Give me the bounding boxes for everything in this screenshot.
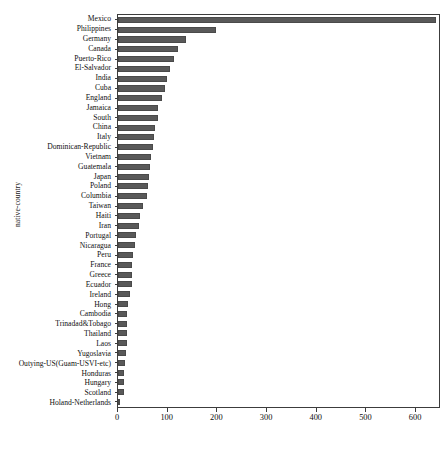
bar-row xyxy=(118,35,439,45)
y-axis-tick-label-row: Guatemala xyxy=(22,162,114,172)
y-axis-tick-mark xyxy=(115,235,118,236)
y-axis-tick-mark xyxy=(115,372,118,373)
x-axis-tick-label: 500 xyxy=(359,413,372,422)
bar xyxy=(118,291,130,297)
bar xyxy=(118,154,151,160)
y-axis-tick-label: China xyxy=(93,123,111,131)
y-axis-tick-label-row: Taiwan xyxy=(22,201,114,211)
y-axis-tick-label: Guatemala xyxy=(78,163,111,171)
bar-row xyxy=(118,15,439,25)
bar-row xyxy=(118,191,439,201)
y-axis-tick-mark xyxy=(115,166,118,167)
y-axis-tick-label: Germany xyxy=(83,35,111,43)
bar-row xyxy=(118,289,439,299)
bar-row xyxy=(118,93,439,103)
bar xyxy=(118,95,162,101)
y-axis-tick-mark xyxy=(115,117,118,118)
x-axis-tick-label: 600 xyxy=(409,413,422,422)
bar-row xyxy=(118,260,439,270)
y-axis-tick-label-row: Germany xyxy=(22,34,114,44)
bar xyxy=(118,213,140,219)
bar-row xyxy=(118,319,439,329)
bar-row xyxy=(118,231,439,241)
y-axis-tick-label: Italy xyxy=(97,133,111,141)
bar-row xyxy=(118,397,439,407)
y-axis-tick-label: Ireland xyxy=(89,291,111,299)
y-axis-tick-mark xyxy=(115,206,118,207)
bar xyxy=(118,134,154,140)
bar xyxy=(118,36,186,42)
y-axis-tick-label: India xyxy=(95,74,111,82)
y-axis-tick-label: Columbia xyxy=(81,192,111,200)
plot-area xyxy=(117,14,440,408)
bar xyxy=(118,203,143,209)
bar xyxy=(118,27,216,33)
y-axis-tick-label-row: Outying-US(Guam-USVI-etc) xyxy=(22,359,114,369)
bar-row xyxy=(118,182,439,192)
bar xyxy=(118,66,170,72)
y-axis-tick-mark xyxy=(115,313,118,314)
bar xyxy=(118,272,132,278)
y-axis-tick-label: El-Salvador xyxy=(75,64,111,72)
y-axis-tick-label: Poland xyxy=(90,182,111,190)
y-axis-tick-label-row: Puerto-Rico xyxy=(22,53,114,63)
y-axis-tick-label-row: Haiti xyxy=(22,211,114,221)
y-axis-tick-label: Laos xyxy=(96,340,111,348)
bar-row xyxy=(118,211,439,221)
y-axis-tick-mark xyxy=(115,59,118,60)
y-axis-tick-label-row: Cuba xyxy=(22,83,114,93)
y-axis-tick-label-row: Ireland xyxy=(22,290,114,300)
y-axis-tick-label-row: Italy xyxy=(22,132,114,142)
y-axis-tick-label-row: England xyxy=(22,93,114,103)
y-axis-tick-label-row: Philippines xyxy=(22,24,114,34)
x-axis-tick-mark xyxy=(266,408,267,412)
y-axis-tick-label-row: Trinadad&Tobago xyxy=(22,319,114,329)
y-axis-tick-label-row: El-Salvador xyxy=(22,63,114,73)
chart-figure: native-country MexicoPhilippinesGermanyC… xyxy=(0,0,445,452)
y-axis-tick-label-row: Scotland xyxy=(22,388,114,398)
y-axis-tick-mark xyxy=(115,108,118,109)
y-axis-tick-label-row: Greece xyxy=(22,270,114,280)
y-axis-tick-mark xyxy=(115,352,118,353)
bar-row xyxy=(118,387,439,397)
y-axis-tick-mark xyxy=(115,127,118,128)
bar-row xyxy=(118,201,439,211)
bar-row xyxy=(118,280,439,290)
y-axis-tick-label: Holand-Netherlands xyxy=(49,399,111,407)
y-axis-tick-mark xyxy=(115,186,118,187)
y-axis-tick-label: Thailand xyxy=(84,330,111,338)
y-axis-tick-label-row: Jamaica xyxy=(22,103,114,113)
x-axis-tick-mark xyxy=(365,408,366,412)
y-axis-tick-mark xyxy=(115,137,118,138)
y-axis-tick-mark xyxy=(115,255,118,256)
y-axis-tick-label-row: Canada xyxy=(22,44,114,54)
bar xyxy=(118,360,125,366)
bar xyxy=(118,232,136,238)
y-axis-tick-label-row: Ecuador xyxy=(22,280,114,290)
bar xyxy=(118,76,167,82)
bar xyxy=(118,399,120,405)
bar-series xyxy=(118,15,439,407)
y-axis-tick-label: Trinadad&Tobago xyxy=(55,320,111,328)
bar xyxy=(118,56,174,62)
y-axis-tick-label-row: South xyxy=(22,112,114,122)
y-axis-tick-mark xyxy=(115,196,118,197)
bar xyxy=(118,340,127,346)
y-axis-tick-label-row: Iran xyxy=(22,221,114,231)
y-axis-tick-label: Portugal xyxy=(85,232,111,240)
y-axis-tick-label: Peru xyxy=(97,251,111,259)
bar-row xyxy=(118,348,439,358)
y-axis-tick-label-row: Yugoslavia xyxy=(22,349,114,359)
bar-row xyxy=(118,133,439,143)
bar xyxy=(118,370,124,376)
y-axis-tick-label: England xyxy=(86,94,111,102)
bar xyxy=(118,281,132,287)
bar-row xyxy=(118,309,439,319)
y-axis-tick-mark xyxy=(115,294,118,295)
y-axis-tick-label-row: India xyxy=(22,73,114,83)
y-axis-tick-label-row: Columbia xyxy=(22,191,114,201)
y-axis-tick-label: Dominican-Republic xyxy=(47,143,111,151)
bar xyxy=(118,85,165,91)
y-axis-tick-mark xyxy=(115,39,118,40)
bar-row xyxy=(118,270,439,280)
